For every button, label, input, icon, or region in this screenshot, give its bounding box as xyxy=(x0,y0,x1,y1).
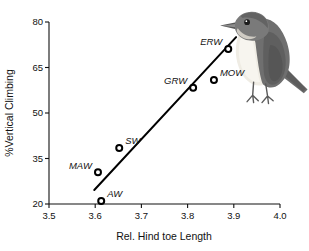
data-point: ERW xyxy=(200,36,231,52)
data-point-marker xyxy=(98,198,104,204)
y-tick-label: 20 xyxy=(32,198,43,209)
data-point-marker xyxy=(95,169,101,175)
y-tick-label: 80 xyxy=(32,16,43,27)
data-point-label: AW xyxy=(106,188,123,199)
x-tick-label: 3.5 xyxy=(42,210,55,221)
y-axis-tick-labels: 2035506580 xyxy=(32,16,43,209)
y-tick-label: 50 xyxy=(32,107,43,118)
data-point-label: GRW xyxy=(164,75,188,86)
y-axis-title: %Vertical Climbing xyxy=(3,69,15,157)
data-point-label: MAW xyxy=(69,160,93,171)
x-axis-title: Rel. Hind toe Length xyxy=(116,230,212,242)
bird-illustration xyxy=(220,12,307,104)
data-point: SW xyxy=(116,135,141,151)
data-point-label: MOW xyxy=(220,67,245,78)
data-point-marker xyxy=(190,85,196,91)
data-point: AW xyxy=(98,188,123,204)
data-point-marker xyxy=(211,77,217,83)
data-point: MOW xyxy=(211,67,245,83)
regression-line xyxy=(94,37,236,190)
y-axis-ticks xyxy=(45,22,49,204)
data-points-group: AWMAWSWGRWMOWERW xyxy=(69,36,245,203)
x-tick-label: 3.7 xyxy=(135,210,148,221)
y-tick-label: 65 xyxy=(32,62,43,73)
data-point-label: SW xyxy=(125,135,141,146)
y-tick-label: 35 xyxy=(32,153,43,164)
data-point: MAW xyxy=(69,160,101,176)
data-point: GRW xyxy=(164,75,196,91)
x-tick-label: 3.9 xyxy=(227,210,240,221)
data-point-marker xyxy=(225,46,231,52)
x-axis-tick-labels: 3.53.63.73.83.94.0 xyxy=(42,210,286,221)
x-axis-ticks xyxy=(49,204,280,208)
x-tick-label: 3.6 xyxy=(89,210,102,221)
x-tick-label: 3.8 xyxy=(181,210,194,221)
data-point-label: ERW xyxy=(200,36,223,47)
scatter-plot-figure: 2035506580 3.53.63.73.83.94.0 xyxy=(0,0,309,251)
data-point-marker xyxy=(116,145,122,151)
x-tick-label: 4.0 xyxy=(273,210,286,221)
chart-canvas: 2035506580 3.53.63.73.83.94.0 xyxy=(0,0,309,251)
